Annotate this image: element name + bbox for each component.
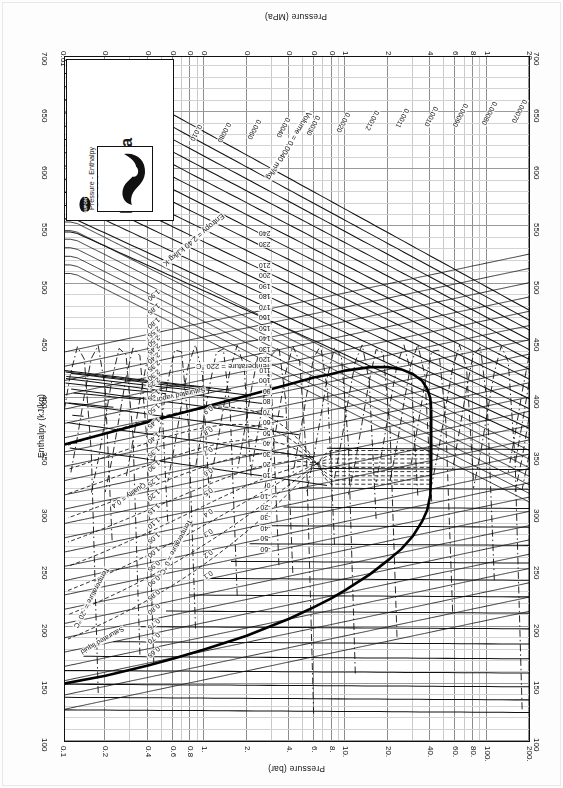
isotherm-liquid--60 xyxy=(64,710,529,713)
label-isotherm--10: -10 xyxy=(259,493,271,500)
label-isotherm-230: 230 xyxy=(258,241,272,248)
label-isotherm-110: 110 xyxy=(258,367,271,374)
axis-tick: 8. xyxy=(328,746,337,753)
axis-tick: 600 xyxy=(40,166,49,179)
axis-tick: 6. xyxy=(310,746,319,753)
axis-tick: 40. xyxy=(426,746,435,757)
isotherm-liquid-50 xyxy=(250,544,529,546)
axis-tick: 550 xyxy=(40,224,49,237)
isentrope-0.8 xyxy=(64,569,529,667)
axis-label-top-pressure-bar: Pressure (bar) xyxy=(268,764,325,774)
isotherm-liquid-70 xyxy=(284,507,530,508)
label-isotherm-190: 190 xyxy=(258,283,272,290)
isentrope-2.25 xyxy=(64,274,529,502)
label-isotherm-20: 20 xyxy=(262,461,272,468)
axis-tick: 400 xyxy=(532,395,541,408)
isentrope-1.65 xyxy=(64,326,529,424)
label-isotherm-40: 40 xyxy=(262,440,272,447)
isentrope-0.85 xyxy=(64,554,529,652)
label-isotherm--20: -20 xyxy=(259,504,271,511)
isochore-0.015 xyxy=(348,350,397,637)
axis-tick: 200 xyxy=(40,624,49,637)
axis-tick: 10. xyxy=(341,746,350,757)
suva-logo-box: SUVA xyxy=(97,146,153,212)
isentrope-0.95 xyxy=(64,526,529,624)
axis-tick: 100. xyxy=(483,746,492,762)
isentrope-0.65 xyxy=(64,611,529,709)
axis-tick: 700 xyxy=(40,52,49,65)
label-isotherm-60: 60 xyxy=(262,419,272,426)
axis-tick: 200 xyxy=(532,624,541,637)
label-isotherm-70: 70 xyxy=(262,409,272,416)
axis-tick: 0.8 xyxy=(187,746,196,757)
isentrope-1.85 xyxy=(64,268,529,366)
axis-tick: 600 xyxy=(532,166,541,179)
axis-tick: 80. xyxy=(469,746,478,757)
dupont-logo: DUPONT xyxy=(80,197,91,213)
label-isotherm-10: 10 xyxy=(262,472,272,479)
axis-tick: 60. xyxy=(451,746,460,757)
quality-line-0.2 xyxy=(68,455,430,615)
label-isotherm-140: 140 xyxy=(258,335,272,342)
axis-tick: 700 xyxy=(532,52,541,65)
chart-sheet: Pressure (bar) 200.100.80.60.40.20.10.8.… xyxy=(0,0,563,788)
label-isotherm-180: 180 xyxy=(258,293,272,300)
axis-tick: 450 xyxy=(40,338,49,351)
label-isotherm-50: 50 xyxy=(262,430,272,437)
label-isotherm--50: -50 xyxy=(259,535,271,542)
label-isotherm-80: 80 xyxy=(262,398,272,405)
isochore-0.002 xyxy=(473,346,522,709)
label-isotherm-0: 0 xyxy=(266,482,272,489)
isotherm-liquid-60 xyxy=(267,526,529,528)
chart-page: Pressure (bar) 200.100.80.60.40.20.10.8.… xyxy=(0,0,563,788)
isentrope-1.1 xyxy=(64,483,529,581)
axis-tick: 350 xyxy=(532,452,541,465)
axis-label-enthalpy: Enthalpy (kJ/kg) xyxy=(36,394,46,458)
axis-tick: 150 xyxy=(40,681,49,694)
isentrope-1.15 xyxy=(64,469,529,567)
axis-tick: 500 xyxy=(532,281,541,294)
axis-tick: 0.4 xyxy=(144,746,153,757)
label-isotherm-130: 130 xyxy=(258,346,272,353)
axis-tick: 650 xyxy=(40,109,49,122)
isotherm-vapor--20 xyxy=(72,415,83,416)
isotherm-liquid--40 xyxy=(64,684,529,687)
isotherm-liquid--50 xyxy=(64,697,529,700)
isentrope-1.8 xyxy=(64,283,529,381)
isotherm-liquid-10 xyxy=(166,611,529,613)
axis-tick: 150 xyxy=(532,681,541,694)
label-isotherm--30: -30 xyxy=(259,514,271,521)
axis-tick: 0.1 xyxy=(59,746,68,757)
isotherm-liquid-80 xyxy=(299,488,529,489)
isentrope-0.75 xyxy=(64,583,529,681)
axis-tick: 300 xyxy=(532,509,541,522)
axis-tick: 450 xyxy=(532,338,541,351)
isentrope-1.3 xyxy=(64,426,529,524)
isentrope-2.55 xyxy=(64,222,529,450)
isotherm-liquid-0 xyxy=(141,627,529,629)
label-isotherm-100: 100 xyxy=(258,377,272,384)
label-isotherm-120: 120 xyxy=(258,356,272,363)
label-isotherm--60: -60 xyxy=(259,546,271,553)
axis-tick: 250 xyxy=(532,567,541,580)
axis-tick: 1. xyxy=(200,746,209,753)
label-isotherm-170: 170 xyxy=(258,304,272,311)
axis-tick: 650 xyxy=(532,109,541,122)
isotherm-liquid-40 xyxy=(231,561,529,563)
label-isotherm-160: 160 xyxy=(258,314,272,321)
label-isotherm-150: 150 xyxy=(258,325,272,332)
axis-tick: 100 xyxy=(40,738,49,751)
label-isotherm-240: 240 xyxy=(258,230,272,237)
axis-tick: 20. xyxy=(384,746,393,757)
isotherm-liquid-20 xyxy=(189,595,529,597)
label-isotherm--40: -40 xyxy=(259,525,271,532)
title-block: Pressure - Enthalpy Diagram HFC-134a (SI… xyxy=(66,59,174,221)
axis-tick: 100 xyxy=(532,738,541,751)
axis-tick: 550 xyxy=(532,224,541,237)
isentrope-lines xyxy=(64,222,529,710)
isotherm-liquid--30 xyxy=(64,670,529,673)
axis-label-bottom-pressure-mpa: Pressure (MPa) xyxy=(265,12,327,22)
axis-tick: 4. xyxy=(285,746,294,753)
label-isotherm-200: 200 xyxy=(258,272,272,279)
axis-tick: 500 xyxy=(40,281,49,294)
